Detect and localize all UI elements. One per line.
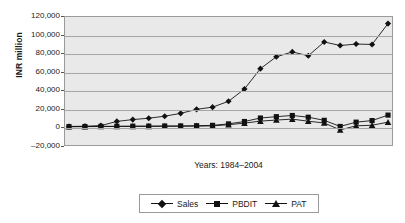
y-axis-tick-labels: 120,000100,00080,00060,00040,00020,0000–… bbox=[16, 0, 60, 223]
triangle-icon bbox=[272, 200, 280, 207]
y-axis-tick-label: 20,000 bbox=[16, 105, 60, 113]
data-point-marker bbox=[385, 113, 390, 118]
legend-entry-pbdit[interactable]: PBDIT bbox=[206, 199, 257, 209]
data-point-marker bbox=[353, 41, 359, 47]
gridline bbox=[65, 73, 392, 74]
legend-marker-diamond-icon bbox=[151, 199, 173, 209]
series-line bbox=[69, 24, 388, 127]
y-axis-tick-mark bbox=[61, 16, 64, 17]
legend-label: PBDIT bbox=[232, 199, 257, 209]
y-axis-tick-mark bbox=[61, 35, 64, 36]
y-axis-tick-label: 80,000 bbox=[16, 49, 60, 57]
gridline bbox=[65, 91, 392, 92]
y-axis-tick-mark bbox=[61, 72, 64, 73]
legend-marker-triangle-icon bbox=[265, 199, 287, 209]
y-axis-tick-label: 120,000 bbox=[16, 12, 60, 20]
y-axis-tick-mark bbox=[61, 53, 64, 54]
data-point-marker bbox=[130, 117, 136, 123]
gridline bbox=[65, 54, 392, 55]
chart-legend: SalesPBDITPAT bbox=[139, 194, 319, 213]
data-point-marker bbox=[385, 119, 392, 125]
gridline bbox=[65, 110, 392, 111]
square-icon bbox=[214, 201, 220, 207]
series-sales bbox=[66, 21, 391, 130]
y-axis-tick-label: 40,000 bbox=[16, 86, 60, 94]
gridline bbox=[65, 128, 392, 129]
legend-marker-square-icon bbox=[206, 199, 228, 209]
y-axis-tick-mark bbox=[61, 90, 64, 91]
chart-container: INR million 120,000100,00080,00060,00040… bbox=[0, 0, 405, 223]
plot-area bbox=[64, 16, 393, 146]
y-axis-tick-label: 60,000 bbox=[16, 68, 60, 76]
y-axis-tick-mark bbox=[61, 127, 64, 128]
data-point-marker bbox=[146, 115, 152, 121]
legend-label: Sales bbox=[177, 199, 198, 209]
x-axis-title: Years: 1984–2004 bbox=[64, 160, 393, 170]
legend-entry-sales[interactable]: Sales bbox=[151, 199, 198, 209]
y-axis-tick-label: 0 bbox=[16, 123, 60, 131]
legend-label: PAT bbox=[291, 199, 306, 209]
data-point-marker bbox=[178, 110, 184, 116]
y-axis-tick-mark bbox=[61, 109, 64, 110]
diamond-icon bbox=[158, 199, 166, 207]
data-point-marker bbox=[337, 42, 343, 48]
y-axis-tick-mark bbox=[61, 146, 64, 147]
y-axis-tick-label: –20,000 bbox=[16, 142, 60, 150]
gridline bbox=[65, 36, 392, 37]
legend-entry-pat[interactable]: PAT bbox=[265, 199, 306, 209]
y-axis-tick-label: 100,000 bbox=[16, 31, 60, 39]
data-point-marker bbox=[162, 113, 168, 119]
